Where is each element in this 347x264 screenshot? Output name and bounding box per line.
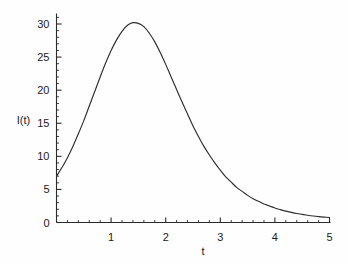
data-curve — [57, 23, 330, 218]
y-tick-label: 5 — [43, 183, 49, 195]
x-tick-label: 3 — [217, 231, 223, 243]
y-tick-label: 25 — [37, 51, 49, 63]
axes-layer — [57, 14, 331, 223]
chart-figure: 12345051015202530 tI(t) — [0, 0, 347, 264]
line-chart: 12345051015202530 tI(t) — [0, 0, 347, 264]
x-tick-label: 1 — [108, 231, 114, 243]
y-tick-label: 10 — [37, 150, 49, 162]
x-tick-label: 2 — [163, 231, 169, 243]
data-curve-layer — [57, 23, 330, 218]
y-tick-label: 0 — [43, 217, 49, 229]
y-tick-label: 15 — [37, 117, 49, 129]
x-axis-title: t — [201, 245, 204, 257]
y-axis-title: I(t) — [17, 114, 30, 126]
tick-marks-layer — [57, 17, 330, 222]
y-tick-label: 30 — [37, 18, 49, 30]
x-tick-label: 5 — [326, 231, 332, 243]
x-tick-label: 4 — [272, 231, 278, 243]
tick-labels-layer: 12345051015202530 — [37, 18, 332, 243]
y-tick-label: 20 — [37, 84, 49, 96]
